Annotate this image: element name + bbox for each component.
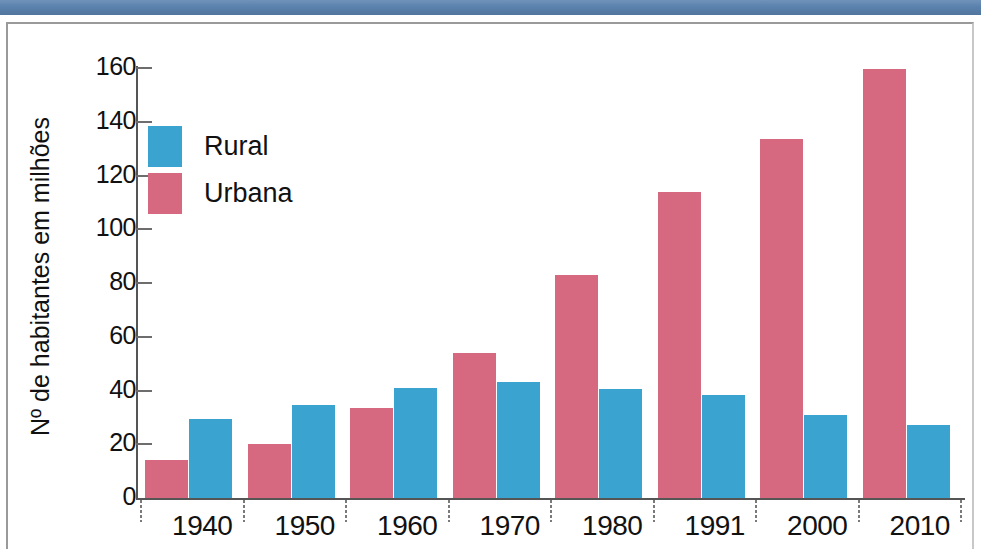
y-tick-label: 0 bbox=[64, 484, 136, 509]
y-tick-dash bbox=[136, 336, 152, 338]
y-tick-dash bbox=[136, 390, 152, 392]
y-tick-dash bbox=[136, 282, 152, 284]
bar-rural-1980 bbox=[599, 389, 642, 498]
x-tick bbox=[960, 500, 962, 522]
bar-rural-1940 bbox=[189, 419, 232, 498]
bar-urbana-1960 bbox=[350, 408, 393, 498]
y-tick-label: 80 bbox=[64, 269, 136, 294]
y-tick-dash bbox=[136, 228, 152, 230]
y-tick-label: 160 bbox=[64, 54, 136, 79]
y-axis-title: Nº de habitantes em milhões bbox=[26, 57, 55, 497]
bar-urbana-1991 bbox=[658, 192, 701, 498]
bar-urbana-1950 bbox=[248, 444, 291, 498]
bar-urbana-2000 bbox=[760, 139, 803, 498]
legend-item-urbana: Urbana bbox=[148, 170, 293, 217]
y-tick-label: 120 bbox=[64, 162, 136, 187]
page-bottom-edge bbox=[6, 549, 974, 558]
bar-rural-1970 bbox=[497, 382, 540, 498]
legend-label-urbana: Urbana bbox=[204, 178, 293, 209]
y-tick-label: 100 bbox=[64, 215, 136, 240]
y-tick-dash bbox=[136, 67, 152, 69]
legend-swatch-urbana bbox=[148, 173, 182, 214]
bar-rural-1950 bbox=[292, 405, 335, 498]
bar-rural-2010 bbox=[907, 425, 950, 498]
bar-rural-2000 bbox=[804, 415, 847, 498]
bar-urbana-1980 bbox=[555, 275, 598, 498]
bar-urbana-2010 bbox=[863, 69, 906, 498]
y-tick-label: 20 bbox=[64, 430, 136, 455]
bar-rural-1960 bbox=[394, 388, 437, 498]
chart-legend: Rural Urbana bbox=[148, 123, 293, 217]
y-tick-label: 140 bbox=[64, 108, 136, 133]
bar-rural-1991 bbox=[702, 395, 745, 498]
bar-urbana-1940 bbox=[145, 460, 188, 498]
y-tick-dash bbox=[136, 443, 152, 445]
legend-label-rural: Rural bbox=[204, 131, 269, 162]
legend-swatch-rural bbox=[148, 126, 182, 167]
legend-item-rural: Rural bbox=[148, 123, 293, 170]
population-bar-chart: Nº de habitantes em milhões 020406080100… bbox=[0, 0, 981, 558]
y-tick-label: 60 bbox=[64, 323, 136, 348]
y-tick-label: 40 bbox=[64, 377, 136, 402]
bar-urbana-1970 bbox=[453, 353, 496, 498]
